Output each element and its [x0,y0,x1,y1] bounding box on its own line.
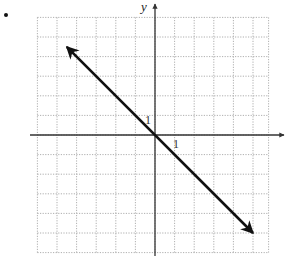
x-tick-1: 1 [173,137,179,152]
coordinate-plane [0,0,287,259]
y-axis-label: y [141,0,147,15]
line-y-equals-neg-x [67,47,253,233]
y-tick-1: 1 [145,113,151,128]
